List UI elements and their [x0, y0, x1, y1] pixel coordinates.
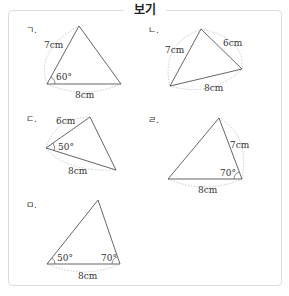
base-label: 8cm: [204, 83, 224, 93]
triangles-figure: ㄱ. 7cm 60° 8cm ㄴ. 6cm 7cm 8cm ㄷ. 6cm 50°…: [0, 0, 289, 296]
triangle-a: ㄱ. 7cm 60° 8cm: [26, 25, 121, 100]
side-label: 7cm: [230, 140, 250, 150]
angle-arc: [51, 77, 55, 84]
side-label: 7cm: [165, 45, 185, 55]
item-marker: ㅁ.: [26, 200, 37, 210]
item-marker: ㄹ.: [148, 115, 159, 125]
angle-label: 70°: [220, 168, 236, 178]
side-label: 7cm: [44, 40, 64, 50]
triangle-e: ㅁ. 50° 70° 8cm: [26, 200, 120, 281]
angle-label: 50°: [58, 142, 74, 152]
angle-label: 50°: [57, 253, 73, 263]
angle-arc: [53, 143, 55, 151]
item-marker: ㄷ.: [26, 114, 37, 124]
base-label: 8cm: [78, 271, 98, 281]
triangle-d: ㄹ. 7cm 70° 8cm: [148, 115, 250, 195]
triangle-c: ㄷ. 6cm 50° 8cm: [26, 114, 116, 176]
item-marker: ㄴ.: [148, 25, 159, 35]
base-label: 8cm: [75, 90, 95, 100]
angle-arc: [52, 258, 55, 264]
side-label: 6cm: [56, 116, 76, 126]
base-label: 8cm: [68, 166, 88, 176]
angle-label: 70°: [101, 253, 117, 263]
triangle-b: ㄴ. 6cm 7cm 8cm: [148, 25, 243, 93]
base-label: 8cm: [198, 185, 218, 195]
angle-label: 60°: [56, 72, 72, 82]
side-label: 6cm: [223, 38, 243, 48]
item-marker: ㄱ.: [26, 25, 37, 35]
